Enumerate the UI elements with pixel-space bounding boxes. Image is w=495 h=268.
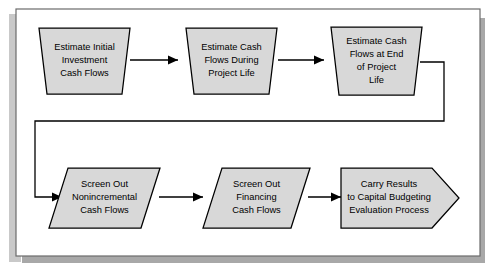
node-estimate-initial-investment-cash-flows: Estimate Initial Investment Cash Flows: [39, 28, 130, 94]
node-estimate-cash-flows-at-end-of-project-life: Estimate Cash Flows at End of Project Li…: [331, 27, 422, 95]
node-5-label-line-2: Financing: [236, 192, 276, 202]
node-1-label-line-1: Estimate Initial: [54, 42, 114, 52]
node-6-label-line-1: Carry Results: [361, 179, 418, 189]
node-3-label-line-1: Estimate Cash: [346, 36, 406, 46]
flowchart-figure: Estimate Initial Investment Cash Flows E…: [0, 0, 495, 268]
node-1-label-line-2: Investment: [62, 55, 108, 65]
node-screen-out-nonincremental-cash-flows: Screen Out Nonincremental Cash Flows: [49, 168, 160, 228]
node-2-label-line-2: Flows During: [204, 55, 258, 65]
node-4-label-line-1: Screen Out: [81, 179, 128, 189]
node-2-label-line-3: Project Life: [208, 68, 255, 78]
node-5-label-line-3: Cash Flows: [232, 205, 281, 215]
node-3-label-line-2: Flows at End: [350, 49, 404, 59]
node-estimate-cash-flows-during-project-life: Estimate Cash Flows During Project Life: [186, 28, 277, 94]
flowchart-canvas: Estimate Initial Investment Cash Flows E…: [0, 0, 495, 268]
node-4-label-line-2: Nonincremental: [72, 192, 137, 202]
node-5-label-line-1: Screen Out: [233, 179, 280, 189]
node-3-label-line-3: of Project: [357, 62, 397, 72]
node-2-label-line-1: Estimate Cash: [201, 42, 261, 52]
node-6-label-line-3: Evaluation Process: [349, 205, 429, 215]
node-3-label-line-4: Life: [369, 75, 384, 85]
node-screen-out-financing-cash-flows: Screen Out Financing Cash Flows: [203, 168, 310, 228]
node-4-label-line-3: Cash Flows: [80, 205, 129, 215]
node-6-label-line-2: to Capital Budgeting: [347, 192, 431, 202]
node-1-label-line-3: Cash Flows: [60, 68, 109, 78]
